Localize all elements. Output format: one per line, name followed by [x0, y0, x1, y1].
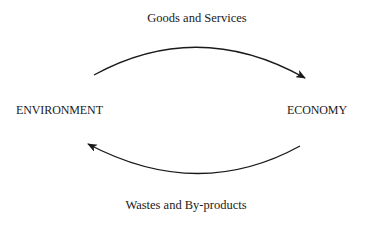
- wastes-and-byproducts-label: Wastes and By-products: [0, 198, 369, 212]
- environment-node: ENVIRONMENT: [16, 103, 103, 117]
- economy-node: ECONOMY: [287, 103, 347, 117]
- top-arrow: [94, 47, 305, 78]
- bottom-arrow: [88, 144, 300, 174]
